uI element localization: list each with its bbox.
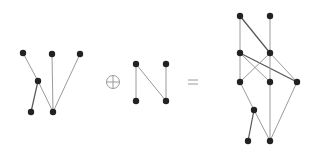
n-poset-edge-n1-n4	[136, 64, 166, 101]
left-poset-node-a3	[77, 51, 83, 57]
left-poset-edge-a1-a4	[23, 53, 38, 81]
left-poset-node-a2	[49, 51, 55, 57]
left-poset-node-a6	[50, 109, 56, 115]
result-poset-node-J	[267, 138, 273, 144]
result-poset-edge-D-G	[270, 53, 297, 82]
n-poset-node-n3	[133, 98, 139, 104]
edges-layer	[23, 16, 297, 141]
result-poset-edge-A-D	[240, 16, 270, 53]
result-poset-node-G	[294, 79, 300, 85]
result-poset-node-C	[237, 50, 243, 56]
left-poset-node-a1	[20, 50, 26, 56]
nodes-layer	[20, 13, 300, 144]
left-poset-edge-a4-a6	[38, 81, 53, 112]
left-poset-edge-a2-a6	[52, 54, 53, 112]
result-poset-edge-H-J	[254, 110, 270, 141]
result-poset-node-B	[267, 13, 273, 19]
result-poset-node-H	[251, 107, 257, 113]
n-poset-node-n4	[163, 98, 169, 104]
result-poset-node-F	[267, 79, 273, 85]
left-poset-node-a5	[28, 109, 34, 115]
n-poset-node-n1	[133, 61, 139, 67]
result-poset-edge-E-H	[240, 82, 254, 110]
diagram-canvas	[0, 0, 317, 152]
poset-diagram	[0, 0, 317, 152]
result-poset-edge-H-I	[248, 110, 254, 141]
result-poset-node-E	[237, 79, 243, 85]
plus-operator-icon	[107, 76, 120, 89]
n-poset-node-n2	[163, 61, 169, 67]
left-poset-edge-a4-a5	[31, 81, 38, 112]
left-poset-edge-a3-a6	[53, 54, 80, 112]
result-poset-edge-C-G	[240, 53, 297, 82]
equals-operator-icon	[188, 80, 198, 84]
result-poset-node-D	[267, 50, 273, 56]
result-poset-edge-G-J	[270, 82, 297, 141]
left-poset-node-a4	[35, 78, 41, 84]
result-poset-node-I	[245, 138, 251, 144]
result-poset-node-A	[237, 13, 243, 19]
